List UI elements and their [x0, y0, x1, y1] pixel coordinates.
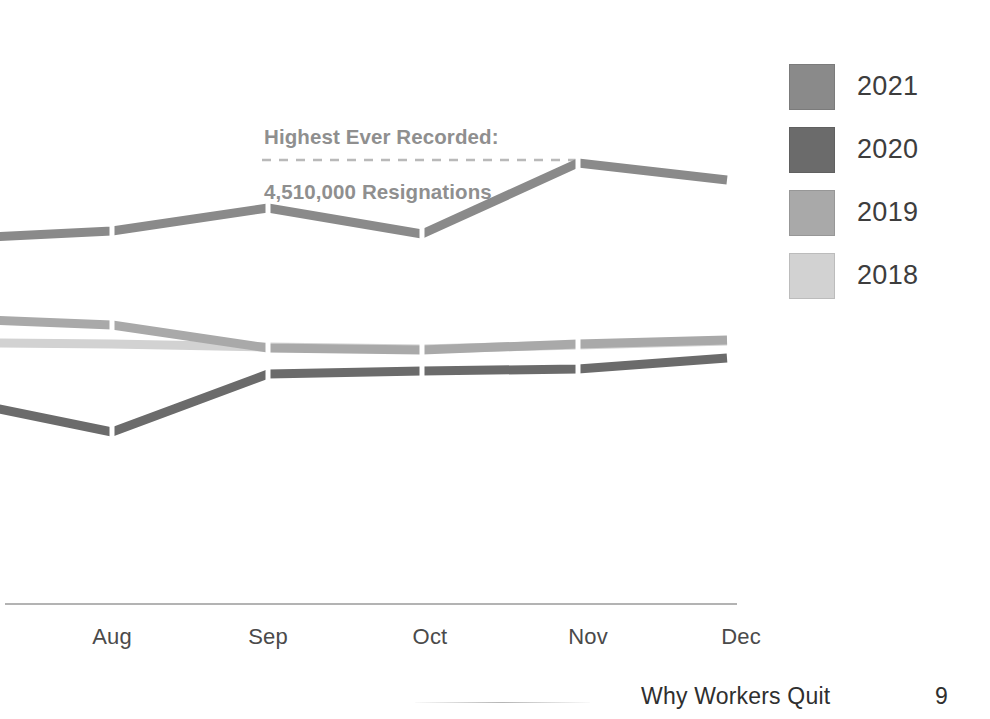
- legend-swatch-2018: [789, 253, 835, 299]
- x-tick-dec: Dec: [721, 624, 761, 650]
- line-chart-plot: [0, 0, 760, 620]
- chart-annotation: Highest Ever Recorded: 4,510,000 Resigna…: [264, 96, 604, 232]
- legend-swatch-2020: [789, 127, 835, 173]
- legend-swatch-2021: [789, 64, 835, 110]
- legend-label-2018: 2018: [857, 260, 918, 291]
- annotation-line-2: 4,510,000 Resignations: [264, 178, 604, 205]
- x-axis-labels: Aug Sep Oct Nov Dec: [0, 624, 760, 664]
- footer-divider: [415, 702, 590, 703]
- legend-item-2020[interactable]: 2020: [789, 118, 979, 181]
- legend-swatch-2019: [789, 190, 835, 236]
- legend-item-2019[interactable]: 2019: [789, 181, 979, 244]
- chart-legend: 2021 2020 2019 2018: [789, 55, 979, 307]
- chart-svg: [0, 0, 760, 620]
- page-footer: Why Workers Quit 9: [0, 683, 990, 719]
- x-tick-aug: Aug: [92, 624, 132, 650]
- legend-label-2019: 2019: [857, 197, 918, 228]
- footer-page-number: 9: [935, 683, 948, 710]
- x-tick-nov: Nov: [568, 624, 608, 650]
- chart-page: Highest Ever Recorded: 4,510,000 Resigna…: [0, 0, 990, 719]
- legend-label-2021: 2021: [857, 71, 918, 102]
- series-line-2020: [0, 358, 727, 432]
- footer-title: Why Workers Quit: [641, 683, 830, 710]
- legend-label-2020: 2020: [857, 134, 918, 165]
- x-tick-oct: Oct: [413, 624, 448, 650]
- legend-item-2018[interactable]: 2018: [789, 244, 979, 307]
- x-tick-sep: Sep: [248, 624, 288, 650]
- annotation-line-1: Highest Ever Recorded:: [264, 123, 604, 150]
- legend-item-2021[interactable]: 2021: [789, 55, 979, 118]
